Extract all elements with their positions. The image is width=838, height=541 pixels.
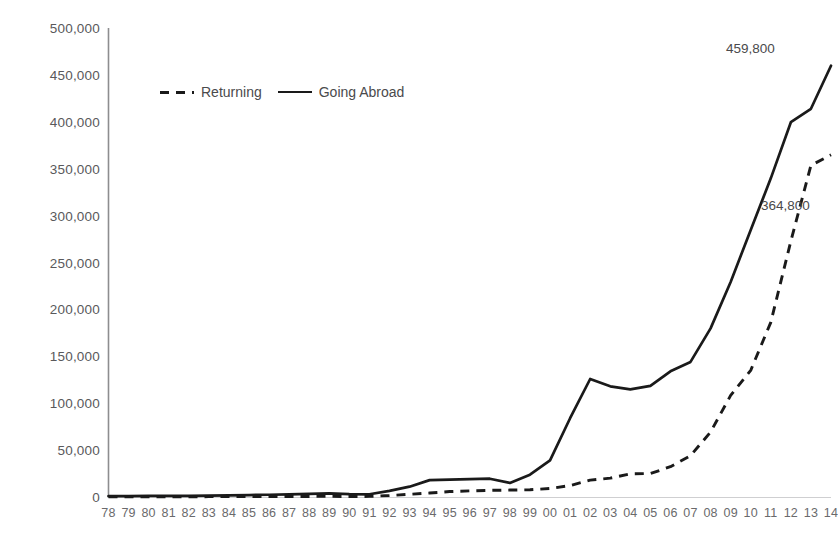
legend-label-returning: Returning: [201, 84, 262, 100]
x-tick-label: 84: [222, 506, 236, 520]
x-tick-label: 85: [242, 506, 256, 520]
legend-entry-going-abroad[interactable]: Going Abroad: [278, 84, 405, 100]
y-tick-label: 300,000: [18, 208, 100, 223]
x-tick-label: 11: [764, 506, 777, 520]
x-tick-label: 96: [463, 506, 477, 520]
y-tick-label: 50,000: [18, 443, 100, 458]
x-tick-label: 89: [322, 506, 336, 520]
x-tick-label: 14: [824, 506, 838, 520]
y-tick-label: 0: [18, 490, 100, 505]
y-tick-label: 200,000: [18, 302, 100, 317]
y-tick-label: 250,000: [18, 255, 100, 270]
x-tick-label: 86: [262, 506, 276, 520]
x-tick-label: 78: [101, 506, 115, 520]
x-tick-label: 95: [443, 506, 457, 520]
x-tick-label: 90: [342, 506, 356, 520]
y-tick-label: 150,000: [18, 349, 100, 364]
legend-label-going-abroad: Going Abroad: [319, 84, 405, 100]
x-tick-label: 94: [422, 506, 436, 520]
series-line-returning: [109, 155, 832, 497]
x-tick-label: 99: [523, 506, 537, 520]
x-tick-label: 03: [603, 506, 617, 520]
x-tick-label: 04: [623, 506, 637, 520]
x-tick-label: 13: [804, 506, 818, 520]
series-line-going-abroad: [109, 66, 832, 496]
data-label-going-abroad-2014: 459,800: [726, 41, 775, 56]
series-group: [109, 66, 832, 497]
x-tick-label: 93: [402, 506, 416, 520]
x-tick-label: 01: [563, 506, 577, 520]
y-tick-label: 100,000: [18, 396, 100, 411]
x-tick-label: 08: [703, 506, 717, 520]
y-tick-label: 400,000: [18, 114, 100, 129]
x-tick-label: 05: [643, 506, 657, 520]
x-tick-label: 02: [583, 506, 597, 520]
data-label-returning-2014: 364,800: [761, 198, 810, 213]
x-tick-label: 82: [182, 506, 196, 520]
x-tick-label: 97: [483, 506, 497, 520]
x-tick-label: 10: [744, 506, 758, 520]
x-tick-label: 79: [121, 506, 135, 520]
chart-legend: Returning Going Abroad: [160, 84, 404, 100]
x-tick-label: 92: [382, 506, 396, 520]
y-tick-label: 350,000: [18, 161, 100, 176]
x-tick-label: 87: [282, 506, 296, 520]
x-tick-label: 83: [202, 506, 216, 520]
x-tick-label: 00: [543, 506, 557, 520]
y-tick-label: 450,000: [18, 67, 100, 82]
x-tick-label: 09: [723, 506, 737, 520]
x-tick-label: 80: [141, 506, 155, 520]
x-tick-label: 12: [784, 506, 798, 520]
x-tick-label: 06: [663, 506, 677, 520]
y-tick-label: 500,000: [18, 21, 100, 36]
x-tick-label: 88: [302, 506, 316, 520]
legend-swatch-dashed-icon: [160, 91, 194, 93]
x-tick-label: 07: [683, 506, 697, 520]
legend-swatch-solid-icon: [278, 91, 312, 94]
x-tick-label: 81: [162, 506, 176, 520]
x-tick-label: 98: [503, 506, 517, 520]
x-tick-label: 91: [362, 506, 376, 520]
legend-entry-returning[interactable]: Returning: [160, 84, 262, 100]
